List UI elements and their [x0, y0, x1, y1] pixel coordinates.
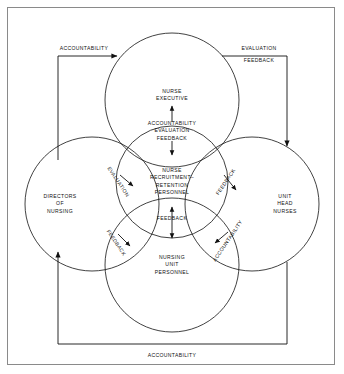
circle-directors-of-nursing — [25, 137, 159, 271]
outer-circles — [25, 33, 319, 332]
venn-diagram-graphic — [0, 0, 344, 374]
flow-connectors — [58, 56, 287, 344]
upper-right-lens-arrow — [224, 175, 236, 190]
diagram-canvas: NURSE EXECUTIVE DIRECTORS OF NURSING UNI… — [0, 0, 344, 374]
circle-unit-head-nurses — [185, 137, 319, 271]
lower-right-lens-arrow — [215, 232, 228, 243]
lower-left-lens-arrow — [118, 234, 130, 246]
left-accountability-path — [58, 56, 117, 160]
upper-left-lens-arrow — [120, 175, 133, 186]
bottom-accountability-path — [58, 252, 287, 344]
